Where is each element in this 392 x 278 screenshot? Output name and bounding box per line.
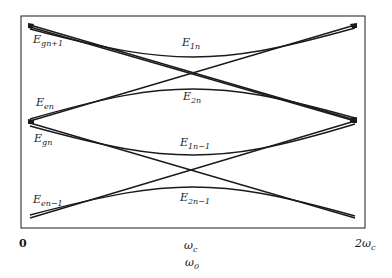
adiabatic-curves (30, 28, 355, 216)
label-e-en-minus-1: Een−1 (33, 194, 63, 208)
x-axis-label-omega-0: ω0 (185, 257, 199, 271)
x-tick-omega-c: ωc (184, 240, 197, 254)
label-e-1n-minus-1: E1n−1 (180, 137, 210, 151)
label-e-2n-minus-1: E2n−1 (180, 192, 210, 206)
label-e-1n: E1n (182, 37, 200, 51)
label-e-2n: E2n (183, 91, 201, 105)
label-e-gn-plus-1: Egn+1 (33, 34, 63, 48)
diabatic-lines (30, 25, 355, 218)
label-e-gn: Egn (34, 133, 52, 147)
label-e-en: Een (36, 97, 54, 111)
x-tick-0: 0 (19, 238, 27, 249)
x-tick-2omega-c: 2ωc (355, 238, 375, 252)
